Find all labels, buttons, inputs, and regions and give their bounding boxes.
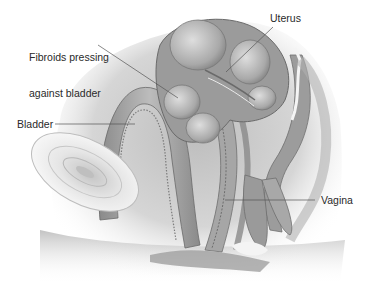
bladder-label: Bladder <box>17 118 53 130</box>
fibroid-lower <box>186 113 220 143</box>
uterus-label: Uterus <box>270 12 301 24</box>
fibroids-label-line1: Fibroids pressing <box>29 51 109 63</box>
fibroids-label: Fibroids pressing against bladder <box>29 27 109 111</box>
vagina-label: Vagina <box>321 194 353 206</box>
fibroid-pressing-bladder <box>164 85 200 119</box>
fibroids-label-line2: against bladder <box>29 87 109 99</box>
fibroid-top <box>170 20 226 70</box>
